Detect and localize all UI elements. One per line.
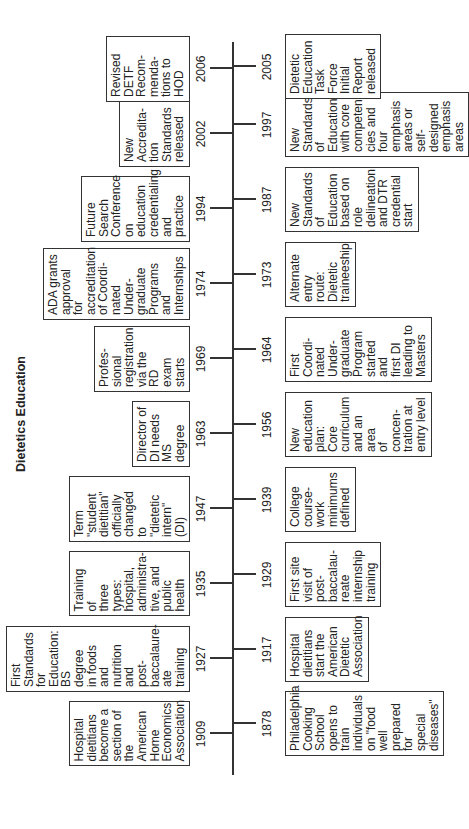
event-tick bbox=[233, 499, 256, 501]
event-description-box: Director of DI needs MS degree bbox=[132, 401, 190, 467]
event-tick bbox=[210, 208, 233, 210]
event-year: 1973 bbox=[260, 255, 274, 295]
event-year: 2006 bbox=[194, 49, 208, 89]
event-description-box: New Standards of Education based on role… bbox=[285, 167, 419, 232]
event-description-box: ADA grants approval for accreditation of… bbox=[43, 248, 190, 320]
event-tick bbox=[210, 68, 233, 70]
event-description-box: Alternate entry route: Dietetic trainees… bbox=[285, 242, 356, 307]
event-description-box: First Standards for Education: BS degree… bbox=[6, 626, 190, 692]
event-description-box: Revised DETF Recom- menda- tions to HOD bbox=[106, 36, 190, 102]
event-tick bbox=[210, 508, 233, 510]
event-tick bbox=[233, 349, 256, 351]
event-description-box: First Coordi- nated Under- graduate Prog… bbox=[285, 317, 432, 382]
event-year: 1935 bbox=[194, 564, 208, 604]
event-tick bbox=[233, 723, 256, 725]
event-year: 1994 bbox=[194, 189, 208, 229]
event-description-box: New Standards of Education with core com… bbox=[285, 92, 469, 157]
event-description-box: Hospital dietitians start the American D… bbox=[285, 617, 369, 682]
event-tick bbox=[210, 658, 233, 660]
event-year: 1969 bbox=[194, 339, 208, 379]
event-description-box: New education plan: Core curriculum and … bbox=[285, 392, 432, 457]
event-tick bbox=[210, 583, 233, 585]
event-year: 1939 bbox=[260, 480, 274, 520]
event-year: 1997 bbox=[260, 105, 274, 145]
event-year: 1987 bbox=[260, 180, 274, 220]
event-year: 1974 bbox=[194, 264, 208, 304]
axis-divider bbox=[232, 774, 234, 776]
event-year: 1964 bbox=[260, 330, 274, 370]
timeline-diagram: Dietetics Education 1909Hospital dietiti… bbox=[0, 0, 469, 829]
event-description-box: First site visit of post- baccalau- reat… bbox=[285, 542, 381, 607]
event-year: 1878 bbox=[260, 704, 274, 744]
event-tick bbox=[233, 124, 256, 126]
event-year: 1917 bbox=[260, 630, 274, 670]
diagram-title: Dietetics Education bbox=[14, 314, 28, 514]
event-year: 1909 bbox=[194, 714, 208, 754]
event-tick bbox=[233, 424, 256, 426]
event-description-box: Future Search Conference on education cr… bbox=[81, 176, 190, 242]
event-description-box: Profes- sional registration via the RD e… bbox=[94, 326, 190, 392]
event-year: 1963 bbox=[194, 414, 208, 454]
event-description-box: College course- work minimums defined bbox=[285, 467, 356, 532]
event-year: 1947 bbox=[194, 489, 208, 529]
event-description-box: Philadelphia Cooking School opens to tra… bbox=[285, 691, 444, 756]
event-tick bbox=[233, 574, 256, 576]
event-tick bbox=[233, 66, 256, 68]
event-tick bbox=[210, 133, 233, 135]
event-tick bbox=[233, 649, 256, 651]
event-year: 2002 bbox=[194, 114, 208, 154]
event-tick bbox=[233, 199, 256, 201]
event-year: 1956 bbox=[260, 405, 274, 445]
event-year: 1927 bbox=[194, 639, 208, 679]
event-year: 2005 bbox=[260, 47, 274, 87]
event-tick bbox=[210, 358, 233, 360]
event-description-box: Hospital dietitians become a section of … bbox=[69, 702, 190, 767]
event-tick bbox=[210, 283, 233, 285]
event-tick bbox=[210, 733, 233, 735]
event-description-box: Training of three types: hospital, admin… bbox=[69, 552, 190, 617]
event-year: 1929 bbox=[260, 555, 274, 595]
event-description-box: Term "student dietitian" officially chan… bbox=[69, 476, 190, 542]
event-tick bbox=[210, 433, 233, 435]
timeline-axis bbox=[232, 42, 234, 775]
event-description-box: Dietetic Education Task Force Initial Re… bbox=[285, 34, 381, 99]
event-tick bbox=[233, 274, 256, 276]
event-description-box: New Accredita- tion Standards released bbox=[119, 101, 190, 167]
